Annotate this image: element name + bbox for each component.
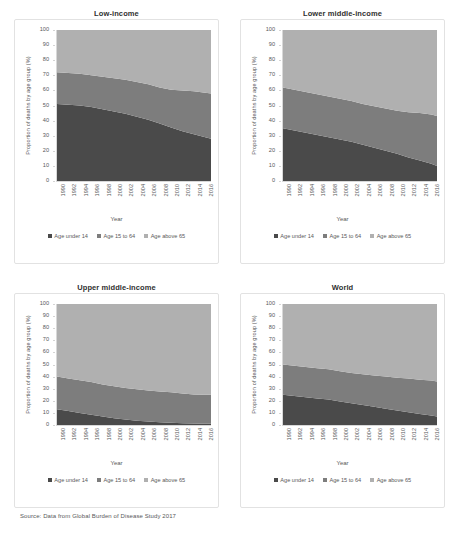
- y-axis-tick-label: 80: [269, 57, 275, 63]
- y-axis-tick-label: 40: [269, 118, 275, 124]
- x-axis-tick-label: 1998: [106, 184, 112, 206]
- chart-title: Low-income: [14, 8, 219, 19]
- plot-canvas: [282, 30, 437, 182]
- y-axis-tick-label: 100: [40, 27, 49, 33]
- y-axis-tick-mark: [279, 304, 281, 305]
- y-axis-tick-label: 100: [40, 301, 49, 307]
- x-axis-tick-label: 2014: [423, 184, 429, 206]
- x-axis-tick-label: 2016: [208, 428, 214, 450]
- y-axis-label: Proportion of deaths by age group (%): [25, 304, 31, 425]
- legend-swatch-icon: [274, 234, 278, 238]
- y-axis-tick-mark: [53, 377, 55, 378]
- x-axis-tick-label: 2016: [208, 184, 214, 206]
- legend-swatch-icon: [144, 234, 148, 238]
- x-axis-tick-label: 2010: [174, 428, 180, 450]
- x-axis-tick-label: 1994: [309, 184, 315, 206]
- plot-canvas: [282, 304, 437, 426]
- legend-item[interactable]: Age under 14: [48, 477, 88, 483]
- y-axis-tick-label: 90: [43, 42, 49, 48]
- legend-swatch-icon: [97, 234, 101, 238]
- legend-item[interactable]: Age under 14: [274, 233, 314, 239]
- y-axis-tick-mark: [279, 45, 281, 46]
- y-axis-tick-mark: [279, 181, 281, 182]
- x-axis-tick-label: 2006: [151, 184, 157, 206]
- y-axis-tick-mark: [53, 328, 55, 329]
- y-axis-tick-mark: [279, 121, 281, 122]
- y-axis-label: Proportion of deaths by age group (%): [251, 30, 257, 181]
- y-axis-tick-label: 10: [43, 163, 49, 169]
- legend-item[interactable]: Age under 14: [48, 233, 88, 239]
- y-axis-tick-mark: [279, 352, 281, 353]
- x-axis-tick-label: 2004: [366, 184, 372, 206]
- y-axis-tick-mark: [53, 304, 55, 305]
- y-axis-tick-mark: [279, 166, 281, 167]
- legend-item[interactable]: Age above 65: [144, 233, 185, 239]
- plot-canvas: [56, 304, 211, 426]
- y-axis-tick-mark: [53, 151, 55, 152]
- y-axis-tick-label: 40: [43, 118, 49, 124]
- chart-panel: Low-incomeProportion of deaths by age gr…: [14, 8, 219, 266]
- y-axis-tick-label: 30: [269, 133, 275, 139]
- x-axis-tick-label: 1998: [106, 428, 112, 450]
- x-axis-tick-label: 2006: [151, 428, 157, 450]
- y-axis-tick-label: 90: [43, 313, 49, 319]
- y-axis-tick-label: 100: [266, 301, 275, 307]
- y-axis-tick-label: 70: [43, 73, 49, 79]
- legend-swatch-icon: [97, 478, 101, 482]
- legend-item[interactable]: Age above 65: [370, 233, 411, 239]
- y-axis-tick-mark: [279, 425, 281, 426]
- y-axis-tick-mark: [53, 75, 55, 76]
- legend-swatch-icon: [370, 478, 374, 482]
- legend-label: Age above 65: [151, 477, 186, 483]
- legend-item[interactable]: Age 15 to 64: [97, 477, 135, 483]
- legend-item[interactable]: Age under 14: [274, 477, 314, 483]
- y-axis-tick-label: 30: [269, 386, 275, 392]
- y-axis-tick-label: 50: [43, 362, 49, 368]
- x-axis-tick-label: 1992: [297, 428, 303, 450]
- legend-item[interactable]: Age above 65: [370, 477, 411, 483]
- x-axis-tick-label: 2010: [400, 184, 406, 206]
- y-axis-tick-mark: [279, 316, 281, 317]
- y-axis-tick-mark: [53, 121, 55, 122]
- x-axis-tick-label: 2002: [128, 184, 134, 206]
- y-axis-tick-label: 0: [272, 422, 275, 428]
- y-axis-tick-mark: [279, 60, 281, 61]
- y-axis-tick-mark: [279, 136, 281, 137]
- legend-item[interactable]: Age above 65: [144, 477, 185, 483]
- legend-item[interactable]: Age 15 to 64: [323, 477, 361, 483]
- x-axis-tick-label: 1990: [286, 184, 292, 206]
- y-axis-tick-label: 0: [272, 178, 275, 184]
- chart-frame: Proportion of deaths by age group (%)010…: [14, 293, 219, 508]
- chart-title: Upper middle-income: [14, 282, 219, 293]
- legend-label: Age under 14: [54, 477, 88, 483]
- chart-panel: Lower middle-incomeProportion of deaths …: [240, 8, 445, 266]
- legend-label: Age 15 to 64: [329, 477, 361, 483]
- legend-swatch-icon: [48, 234, 52, 238]
- legend-swatch-icon: [274, 478, 278, 482]
- y-axis-tick-label: 40: [43, 374, 49, 380]
- chart-legend: Age under 14Age 15 to 64Age above 65: [241, 233, 444, 239]
- y-axis-tick-mark: [53, 365, 55, 366]
- x-axis-tick-label: 2012: [185, 428, 191, 450]
- chart-legend: Age under 14Age 15 to 64Age above 65: [15, 477, 218, 483]
- legend-item[interactable]: Age 15 to 64: [323, 233, 361, 239]
- chart-frame: Proportion of deaths by age group (%)010…: [240, 293, 445, 508]
- legend-label: Age above 65: [151, 233, 186, 239]
- legend-item[interactable]: Age 15 to 64: [97, 233, 135, 239]
- x-axis-tick-label: 2008: [163, 184, 169, 206]
- y-axis-tick-mark: [279, 151, 281, 152]
- x-axis-tick-label: 1994: [309, 428, 315, 450]
- y-axis-tick-label: 20: [269, 398, 275, 404]
- x-axis-tick-label: 2004: [140, 428, 146, 450]
- y-axis-tick-mark: [279, 75, 281, 76]
- x-axis-label: Year: [241, 216, 444, 222]
- y-axis-tick-label: 90: [269, 42, 275, 48]
- y-axis-tick-label: 30: [43, 386, 49, 392]
- y-axis-tick-mark: [53, 90, 55, 91]
- legend-swatch-icon: [370, 234, 374, 238]
- x-axis-tick-label: 1994: [83, 428, 89, 450]
- x-axis-tick-label: 2014: [197, 184, 203, 206]
- y-axis-tick-mark: [279, 106, 281, 107]
- x-axis-tick-label: 1996: [320, 428, 326, 450]
- y-axis-tick-mark: [53, 401, 55, 402]
